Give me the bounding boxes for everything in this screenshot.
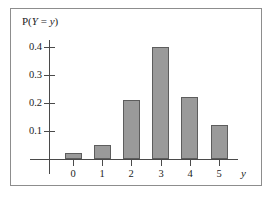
y-axis-title-equals: = xyxy=(38,15,50,27)
x-axis-tick-mark xyxy=(73,159,74,166)
y-axis-tick-mark xyxy=(44,103,55,104)
y-axis-tick-label: 0.4 xyxy=(10,42,42,53)
x-axis-tick-mark xyxy=(131,159,132,166)
x-axis-tick-label: 3 xyxy=(151,169,171,180)
y-axis-tick-mark xyxy=(44,75,55,76)
y-axis-tick-label-text: 0.2 xyxy=(14,98,42,109)
plot-area: P(Y = y) 0.10.20.30.4 012345 y xyxy=(0,0,277,200)
bar xyxy=(211,125,228,159)
y-axis-tick-label: 0.2 xyxy=(10,98,42,109)
bar xyxy=(94,145,111,159)
x-axis-tick-mark xyxy=(219,159,220,166)
x-axis-tick-mark xyxy=(102,159,103,166)
bar xyxy=(65,153,82,159)
x-axis-tick-label: 4 xyxy=(180,169,200,180)
probability-distribution-figure: P(Y = y) 0.10.20.30.4 012345 y xyxy=(0,0,277,200)
y-axis-tick-label: 0.1 xyxy=(10,126,42,137)
y-axis-title-prefix: P( xyxy=(22,15,32,27)
y-axis-tick-mark xyxy=(44,131,55,132)
x-axis-line xyxy=(30,159,238,160)
bar xyxy=(123,100,140,159)
y-axis-tick-label-text: 0.4 xyxy=(14,42,42,53)
x-axis-title: y xyxy=(241,168,246,179)
y-axis-title: P(Y = y) xyxy=(22,16,58,27)
y-axis-tick-label-text: 0.3 xyxy=(14,70,42,81)
x-axis-tick-label: 2 xyxy=(121,169,141,180)
y-axis-tick-label: 0.3 xyxy=(10,70,42,81)
x-axis-tick-mark xyxy=(190,159,191,166)
y-axis-tick-label-text: 0.1 xyxy=(14,126,42,137)
x-axis-tick-label: 0 xyxy=(63,169,83,180)
bar xyxy=(152,47,169,159)
bar xyxy=(181,97,198,159)
x-axis-tick-mark xyxy=(161,159,162,166)
y-axis-title-suffix: ) xyxy=(55,15,59,27)
y-axis-line xyxy=(49,40,50,174)
x-axis-tick-label: 5 xyxy=(209,169,229,180)
y-axis-tick-mark xyxy=(44,47,55,48)
x-axis-tick-label: 1 xyxy=(92,169,112,180)
